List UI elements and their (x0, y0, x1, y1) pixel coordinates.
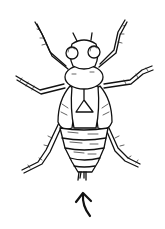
arrow-annotation (76, 193, 91, 216)
left-eye (66, 47, 78, 59)
illustration-canvas (0, 0, 165, 229)
mesothorax (71, 86, 98, 128)
head (66, 33, 100, 69)
abdomen (60, 128, 108, 180)
insect-nymph-drawing (0, 0, 165, 229)
right-eye (88, 46, 100, 58)
